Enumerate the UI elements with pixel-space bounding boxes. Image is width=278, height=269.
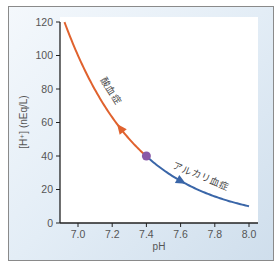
chart: 0204060801001207.07.27.47.67.88.0pH[H⁺] …	[0, 0, 278, 269]
y-tick-label: 100	[35, 49, 53, 61]
normal-point-marker	[142, 152, 151, 161]
plot-area	[60, 17, 258, 223]
y-tick-label: 20	[41, 183, 53, 195]
x-tick-label: 7.6	[173, 228, 188, 240]
x-tick-label: 8.0	[242, 228, 257, 240]
y-axis-label: [H⁺] (nEq/L)	[18, 95, 29, 148]
y-tick-label: 0	[47, 217, 53, 229]
x-tick-label: 7.0	[71, 228, 86, 240]
x-axis-label: pH	[153, 241, 166, 252]
y-tick-label: 120	[35, 16, 53, 28]
x-tick-label: 7.4	[139, 228, 154, 240]
y-tick-label: 80	[41, 83, 53, 95]
y-tick-label: 40	[41, 150, 53, 162]
x-tick-label: 7.8	[207, 228, 222, 240]
x-tick-label: 7.2	[105, 228, 120, 240]
y-tick-label: 60	[41, 116, 53, 128]
